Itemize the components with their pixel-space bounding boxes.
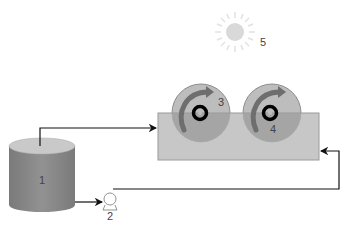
pump-icon (103, 193, 117, 210)
diagram-canvas: 5 3 4 1 2 (0, 0, 348, 226)
sun-icon (215, 12, 255, 52)
label-disc-right: 4 (270, 123, 276, 135)
label-pump: 2 (107, 210, 113, 222)
label-tank: 1 (39, 174, 45, 186)
label-disc-left: 3 (218, 96, 224, 108)
label-sun: 5 (260, 36, 266, 48)
